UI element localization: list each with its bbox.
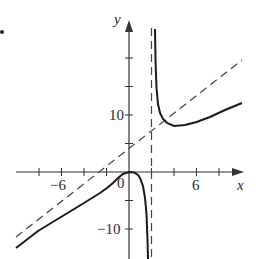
- x-axis-arrow-icon: [232, 168, 244, 176]
- y-axis: [125, 20, 133, 259]
- y-axis-label: y: [112, 11, 121, 27]
- x-axis-label: x: [236, 177, 244, 193]
- bullet-dot: [0, 30, 4, 34]
- x-tick-label-neg6: −6: [50, 177, 66, 193]
- y-tick-label-10: 10: [109, 107, 124, 123]
- y-tick-label-neg10: −10: [97, 221, 120, 237]
- curve-right-branch: [155, 29, 242, 126]
- origin-label: 0: [117, 175, 125, 191]
- y-axis-arrow-icon: [125, 20, 133, 32]
- x-tick-label-6: 6: [192, 177, 200, 193]
- function-graph: y x −6 0 6 10 −10: [0, 0, 256, 259]
